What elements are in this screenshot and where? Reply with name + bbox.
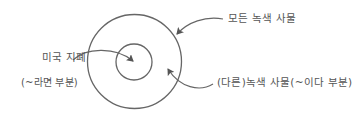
arrow-all-green-icon (177, 18, 223, 34)
outer-circle-all-green-things (88, 15, 182, 109)
label-all-green-things: 모든 녹색 사물 (228, 13, 296, 24)
label-other-green-things: (다른)녹색 사물(~이다 부분) (217, 77, 352, 88)
label-us-bills: 미국 지폐 (42, 52, 86, 63)
label-if-part: (~라면 부분) (21, 78, 78, 88)
inner-circle-us-bills (116, 44, 152, 80)
